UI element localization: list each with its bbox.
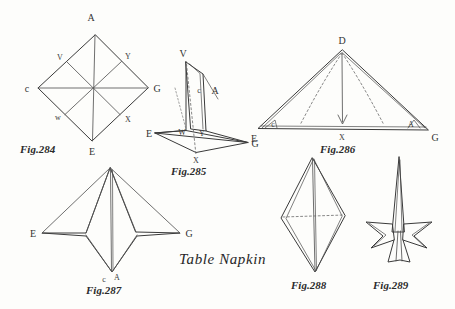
- fig284-label-c: c: [25, 83, 30, 94]
- plate-canvas: A c G E V Y w X Fig.284: [0, 0, 455, 309]
- fig286-label-d: D: [338, 35, 345, 46]
- fig284-label-e: E: [89, 146, 95, 157]
- fig286-label-a: A: [408, 120, 414, 129]
- fig286-label-c: c: [271, 120, 275, 129]
- fig285-label-c: c: [197, 86, 201, 95]
- fig287-central-spine-inner: [113, 170, 114, 270]
- fig286-arrow-shaft: [342, 54, 343, 122]
- figure-286: D E G X c A Fig.286: [251, 35, 439, 155]
- fig284-caption: Fig.284: [19, 143, 56, 155]
- figure-287: E G c A Fig.287: [30, 168, 193, 296]
- fig287-label-a: A: [114, 273, 120, 282]
- fig286-label-e: E: [251, 133, 257, 144]
- fig285-label-w: W: [178, 128, 186, 137]
- fig286-base-inner: [261, 126, 426, 127]
- fig289-central-spike: [392, 157, 404, 232]
- fig289-base-skirt: [388, 240, 410, 262]
- fig285-left-face: [155, 62, 186, 133]
- fig285-label-v: V: [179, 48, 187, 59]
- fig288-caption: Fig.288: [290, 279, 327, 291]
- fig284-label-w: w: [55, 113, 61, 122]
- fig285-hidden-edge-we: [175, 88, 186, 129]
- fig287-rib-left: [86, 168, 110, 233]
- napkin-folding-diagram: A c G E V Y w X Fig.284: [0, 0, 455, 309]
- fig286-caption: Fig.286: [319, 143, 356, 155]
- fig284-label-v: V: [57, 53, 63, 62]
- fig289-left-wing: [366, 222, 394, 248]
- fig289-caption: Fig.289: [372, 279, 409, 291]
- fig284-label-g: G: [153, 83, 160, 94]
- fig285-label-e: E: [146, 128, 152, 139]
- fig284-label-y: Y: [125, 52, 131, 61]
- fig286-left-edge-inner: [262, 53, 341, 128]
- fig289-stem-left: [396, 231, 398, 261]
- fig287-label-g: G: [185, 228, 192, 239]
- fig287-label-c: c: [102, 275, 106, 284]
- figure-285: V c A W Y E G X Fig.285: [146, 48, 259, 177]
- figure-284: A c G E V Y w X Fig.284: [19, 12, 161, 157]
- fig287-caption: Fig.287: [85, 284, 122, 296]
- fig285-raised-flap: [186, 62, 206, 131]
- fig285-label-x: X: [193, 156, 199, 165]
- fig289-stem-right: [401, 231, 403, 261]
- fig286-fold-arc-right: [342, 53, 384, 125]
- fig286-triangle: [258, 50, 428, 130]
- plate-title: Table Napkin: [179, 251, 266, 267]
- fig286-label-g: G: [431, 132, 438, 143]
- fig286-fold-arc-left: [300, 53, 342, 125]
- figure-289: Fig.289: [366, 157, 432, 291]
- fig289-right-wing: [403, 222, 432, 248]
- fig284-label-a: A: [87, 12, 95, 23]
- fig285-caption: Fig.285: [170, 165, 207, 177]
- fig284-label-x: X: [125, 115, 131, 124]
- fig286-right-edge-inner: [343, 53, 426, 128]
- figure-288: Fig.288: [281, 158, 345, 291]
- fig285-label-y: Y: [199, 129, 205, 138]
- fig287-edge-to-e: [42, 168, 110, 233]
- fig287-central-spine: [111, 168, 112, 271]
- fig287-label-e: E: [30, 228, 36, 239]
- fig287-rib-right: [111, 168, 137, 232]
- fig287-edge-to-g: [111, 168, 181, 233]
- fig286-label-x: X: [339, 133, 345, 142]
- fig285-label-a: A: [211, 85, 219, 96]
